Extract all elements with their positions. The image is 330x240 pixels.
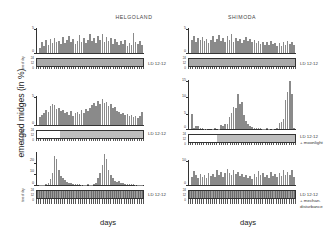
regime-segment-moon bbox=[60, 131, 143, 138]
day-tick bbox=[271, 143, 272, 145]
day-tick bbox=[206, 143, 207, 145]
day-tick bbox=[43, 199, 44, 204]
day-tick bbox=[60, 199, 61, 204]
panel-shimoda-ld: 5 0 bbox=[188, 28, 296, 54]
day-tick bbox=[258, 199, 259, 204]
day-tick bbox=[247, 199, 248, 204]
day-tick bbox=[126, 199, 127, 204]
day-tick bbox=[201, 67, 202, 69]
panel-shimoda-disturb: 10 0 bbox=[188, 160, 296, 186]
hour-tick-0: 0 bbox=[177, 67, 186, 70]
day-tick bbox=[295, 143, 296, 145]
day-tick bbox=[102, 199, 103, 204]
day-tick bbox=[104, 139, 105, 141]
day-tick bbox=[276, 143, 277, 145]
ytick-shimoda-disturb-top: 10 bbox=[174, 158, 186, 162]
day-tick bbox=[286, 199, 287, 204]
day-tick bbox=[108, 139, 109, 141]
regime-day-ticks bbox=[188, 67, 296, 69]
day-tick bbox=[126, 67, 127, 69]
condition-text-line2: + moonlight bbox=[300, 140, 323, 146]
day-tick bbox=[73, 67, 74, 69]
day-tick bbox=[60, 139, 61, 141]
day-tick bbox=[267, 199, 268, 204]
day-tick bbox=[93, 139, 94, 141]
day-tick bbox=[67, 199, 68, 204]
day-tick bbox=[219, 199, 220, 204]
day-tick bbox=[99, 67, 100, 69]
day-tick bbox=[260, 67, 261, 69]
day-tick bbox=[95, 139, 96, 141]
day-tick bbox=[219, 67, 220, 69]
day-tick bbox=[58, 67, 59, 69]
day-tick bbox=[71, 199, 72, 204]
day-tick bbox=[197, 143, 198, 145]
day-tick bbox=[208, 143, 209, 145]
day-tick bbox=[236, 67, 237, 69]
ytickmark bbox=[34, 185, 36, 186]
day-tick bbox=[117, 199, 118, 204]
day-tick bbox=[234, 67, 235, 69]
day-tick bbox=[40, 67, 41, 69]
regime-day-ticks bbox=[188, 199, 296, 204]
day-tick bbox=[93, 199, 94, 204]
ytick-helgoland-ld-bottom: 0 bbox=[22, 49, 34, 53]
day-tick bbox=[238, 199, 239, 204]
plot-helgoland-disturb bbox=[36, 152, 144, 186]
day-tick bbox=[280, 143, 281, 145]
day-tick bbox=[221, 67, 222, 69]
day-tick bbox=[295, 199, 296, 204]
day-tick bbox=[276, 199, 277, 204]
day-tick bbox=[286, 143, 287, 145]
ytick-shimoda-moon-5: 5 bbox=[174, 111, 186, 115]
hour-axis-caption: time of day bbox=[21, 128, 25, 142]
day-tick bbox=[40, 139, 41, 141]
day-tick bbox=[256, 199, 257, 204]
day-tick bbox=[245, 67, 246, 69]
day-tick bbox=[293, 199, 294, 204]
condition-text-line2: + mechan. bbox=[300, 198, 323, 204]
day-tick bbox=[192, 67, 193, 69]
ytickmark bbox=[186, 97, 188, 98]
day-tick bbox=[206, 199, 207, 204]
day-tick bbox=[227, 143, 228, 145]
hour-tick-12: 12 bbox=[25, 62, 34, 65]
hour-tick-24: 24 bbox=[177, 57, 186, 60]
day-tick bbox=[137, 199, 138, 204]
day-tick bbox=[280, 199, 281, 204]
day-tick bbox=[128, 199, 129, 204]
day-tick bbox=[75, 199, 76, 204]
day-tick bbox=[64, 199, 65, 204]
day-tick bbox=[110, 139, 111, 141]
day-tick bbox=[99, 139, 100, 141]
day-tick bbox=[58, 199, 59, 204]
day-tick bbox=[69, 199, 70, 204]
day-tick bbox=[47, 67, 48, 69]
day-tick bbox=[108, 67, 109, 69]
condition-label-shimoda-ld: LD 12:12 bbox=[300, 61, 318, 67]
day-tick bbox=[262, 67, 263, 69]
day-tick bbox=[106, 67, 107, 69]
day-tick bbox=[73, 139, 74, 141]
ytick-shimoda-ld-bottom: 0 bbox=[174, 49, 186, 53]
day-tick bbox=[141, 67, 142, 69]
day-tick bbox=[128, 139, 129, 141]
plot-shimoda-disturb bbox=[188, 160, 296, 186]
day-tick bbox=[62, 199, 63, 204]
day-tick bbox=[216, 143, 217, 145]
day-tick bbox=[282, 143, 283, 145]
day-tick bbox=[119, 199, 120, 204]
column-title-shimoda: SHIMODA bbox=[196, 14, 288, 20]
day-tick bbox=[278, 199, 279, 204]
day-tick bbox=[82, 139, 83, 141]
hour-tick-12: 12 bbox=[25, 194, 34, 197]
day-tick bbox=[86, 199, 87, 204]
hour-tick-12: 12 bbox=[177, 138, 186, 141]
day-tick bbox=[49, 199, 50, 204]
day-tick bbox=[234, 199, 235, 204]
day-tick bbox=[130, 139, 131, 141]
panel-helgoland-ld: 5 0 bbox=[36, 28, 144, 54]
hour-tick-24: 24 bbox=[25, 129, 34, 132]
x-axis-label-shimoda: days bbox=[208, 218, 288, 227]
day-tick bbox=[40, 199, 41, 204]
